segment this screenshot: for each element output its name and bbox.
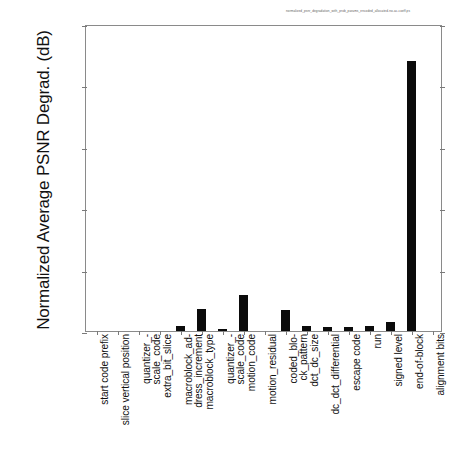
x-tick-label: macroblock_ad- dress_increment xyxy=(184,334,205,454)
y-tick-mark xyxy=(440,149,445,150)
y-tick-mark xyxy=(82,210,87,211)
plot-area: 0.00.0050.010.0150.020.025 xyxy=(85,25,442,332)
y-tick-mark xyxy=(440,272,445,273)
y-tick-mark xyxy=(82,26,87,27)
bar xyxy=(407,61,417,331)
y-tick-mark xyxy=(82,149,87,150)
bar xyxy=(239,295,249,331)
x-tick-label: extra_bit_slice xyxy=(163,334,174,454)
x-tick-label: quantizer_- scale_code xyxy=(142,334,163,454)
x-tick-label: run xyxy=(373,334,384,454)
y-tick-mark xyxy=(440,26,445,27)
x-tick-label: quantizer_- scale_code xyxy=(226,334,247,454)
y-axis-title: Normalized Average PSNR Degrad. (dB) xyxy=(34,20,54,340)
y-tick-mark xyxy=(82,87,87,88)
x-tick-label: coded_blo- ck_pattern xyxy=(289,334,310,454)
x-tick-label: dct_dc_size xyxy=(310,334,321,454)
x-tick-label: start code prefix xyxy=(100,334,111,454)
x-axis-tick-labels: start code prefixslice vertical position… xyxy=(85,332,442,456)
y-tick-mark xyxy=(440,87,445,88)
x-tick-label: motion_code xyxy=(247,334,258,454)
y-tick-mark xyxy=(440,210,445,211)
bar xyxy=(197,309,207,331)
x-tick-label: dc_dct_differential xyxy=(331,334,342,454)
x-tick-label: motion_residual xyxy=(268,334,279,454)
figure-container: normalized_psnr_degradation_with_prob_pa… xyxy=(0,0,461,456)
bar-series xyxy=(86,26,441,331)
x-tick-label: end-of-block xyxy=(415,334,426,454)
x-tick-label: macroblock_type xyxy=(205,334,216,454)
x-tick-label: escape code xyxy=(352,334,363,454)
figure-caption: normalized_psnr_degradation_with_prob_pa… xyxy=(286,9,456,14)
x-tick-label: slice vertical position xyxy=(121,334,132,454)
bar xyxy=(281,310,291,331)
x-tick-label: alignment bits xyxy=(436,334,447,454)
y-tick-mark xyxy=(82,272,87,273)
bar xyxy=(386,322,396,331)
x-tick-label: signed level xyxy=(394,334,405,454)
